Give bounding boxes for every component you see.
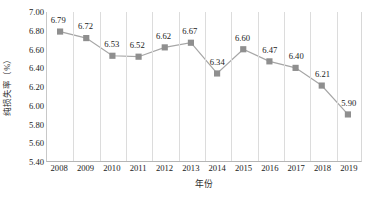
data-point-marker[interactable] [266, 58, 272, 64]
vertical-gridline [337, 12, 338, 161]
data-point-marker[interactable] [293, 65, 299, 71]
x-axis-tick-label: 2008 [51, 164, 68, 173]
vertical-gridline [258, 12, 259, 161]
y-axis-tick-label: 6.20 [14, 83, 44, 92]
y-axis-tick-label: 7.00 [14, 8, 44, 17]
data-point-label: 5.90 [341, 100, 356, 109]
data-point-label: 6.34 [210, 58, 225, 67]
vertical-gridline [284, 12, 285, 161]
x-axis-tick-labels: 2008200920102011201220132014201520162017… [46, 164, 362, 178]
x-axis-tick-label: 2016 [261, 164, 278, 173]
x-axis-tick-label: 2018 [314, 164, 331, 173]
y-axis-tick-label: 5.40 [14, 158, 44, 167]
data-point-marker[interactable] [83, 35, 89, 41]
y-axis-tick-label: 6.80 [14, 26, 44, 35]
data-point-marker[interactable] [345, 111, 351, 117]
x-axis-tick-label: 2019 [340, 164, 357, 173]
y-axis-tick-label: 6.60 [14, 45, 44, 54]
data-point-label: 6.52 [130, 41, 145, 50]
y-axis-title-text: 纯损失率（%） [4, 54, 13, 115]
data-point-label: 6.67 [182, 27, 197, 36]
data-point-marker[interactable] [188, 40, 194, 46]
x-axis-tick-label: 2017 [288, 164, 305, 173]
data-point-marker[interactable] [109, 53, 115, 59]
y-axis-tick-label: 6.00 [14, 101, 44, 110]
data-point-label: 6.79 [51, 16, 66, 25]
series-line [47, 12, 361, 161]
data-point-marker[interactable] [136, 54, 142, 60]
data-point-label: 6.62 [156, 32, 171, 41]
x-axis-tick-label: 2010 [103, 164, 120, 173]
vertical-gridline [73, 12, 74, 161]
line-chart: 纯损失率（%） 7.006.806.606.406.206.005.805.60… [0, 0, 370, 212]
x-axis-title: 年份 [46, 180, 362, 189]
x-axis-tick-label: 2009 [77, 164, 94, 173]
series-polyline [60, 32, 348, 115]
vertical-gridline [126, 12, 127, 161]
vertical-gridline [231, 12, 232, 161]
vertical-gridline [205, 12, 206, 161]
y-axis-tick-label: 5.80 [14, 120, 44, 129]
data-point-marker[interactable] [319, 82, 325, 88]
plot-area: 6.796.726.536.526.626.676.346.606.476.40… [46, 12, 362, 162]
y-axis-tick-labels: 7.006.806.606.406.206.005.805.605.40 [12, 0, 44, 212]
data-point-label: 6.72 [78, 23, 93, 32]
data-point-marker[interactable] [57, 28, 63, 34]
vertical-gridline [152, 12, 153, 161]
y-axis-tick-label: 6.40 [14, 64, 44, 73]
vertical-gridline [100, 12, 101, 161]
vertical-gridline [179, 12, 180, 161]
x-axis-tick-label: 2012 [156, 164, 173, 173]
data-point-label: 6.60 [235, 34, 250, 43]
data-point-label: 6.21 [315, 70, 330, 79]
data-point-marker[interactable] [240, 46, 246, 52]
x-axis-tick-label: 2011 [130, 164, 147, 173]
data-point-label: 6.47 [262, 46, 277, 55]
data-point-label: 6.53 [104, 40, 119, 49]
y-axis-tick-label: 5.60 [14, 139, 44, 148]
x-axis-tick-label: 2014 [209, 164, 226, 173]
data-point-marker[interactable] [162, 44, 168, 50]
x-axis-tick-label: 2013 [182, 164, 199, 173]
data-point-marker[interactable] [214, 70, 220, 76]
vertical-gridline [310, 12, 311, 161]
data-point-label: 6.40 [289, 53, 304, 62]
x-axis-tick-label: 2015 [235, 164, 252, 173]
